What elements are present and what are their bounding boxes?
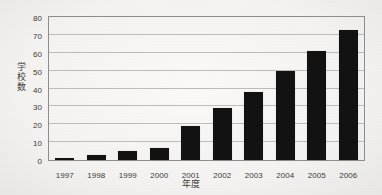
bar <box>307 51 326 160</box>
bar-chart-figure: 学 校 数 01020304050607080 1997199819992000… <box>0 0 382 195</box>
bar <box>150 148 169 161</box>
y-axis-tick-label: 40 <box>20 85 42 94</box>
y-axis-tick-label: 80 <box>20 14 42 23</box>
bar <box>213 108 232 160</box>
bar-slot <box>175 17 207 160</box>
y-axis-tick-label: 10 <box>20 139 42 148</box>
bar-slot <box>49 17 81 160</box>
y-axis-tick-label: 20 <box>20 121 42 130</box>
bar-slot <box>81 17 113 160</box>
bar <box>55 158 74 160</box>
bar <box>87 155 106 160</box>
bar <box>118 151 137 160</box>
bar-series <box>49 17 364 160</box>
bar <box>276 71 295 160</box>
bar-slot <box>144 17 176 160</box>
bar-slot <box>270 17 302 160</box>
y-axis-tick-label: 30 <box>20 103 42 112</box>
bar <box>244 92 263 160</box>
y-axis-tick-label: 0 <box>20 157 42 166</box>
y-axis-tick-labels: 01020304050607080 <box>0 16 44 161</box>
y-axis-tick-label: 50 <box>20 67 42 76</box>
bar-slot <box>112 17 144 160</box>
bar <box>339 30 358 160</box>
bar-slot <box>207 17 239 160</box>
bar <box>181 126 200 160</box>
bar-slot <box>301 17 333 160</box>
bar-slot <box>238 17 270 160</box>
bar-slot <box>333 17 365 160</box>
y-axis-tick-label: 60 <box>20 49 42 58</box>
x-axis-title: 年度 <box>0 177 382 190</box>
y-axis-tick-label: 70 <box>20 31 42 40</box>
